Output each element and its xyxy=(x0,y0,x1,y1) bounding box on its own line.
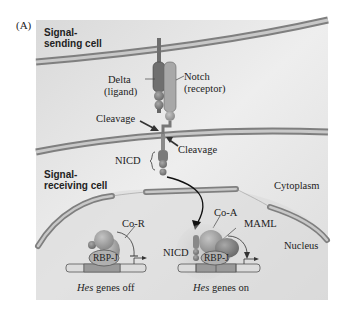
delta-sub-label: (ligand) xyxy=(104,86,137,97)
cytoplasm-label: Cytoplasm xyxy=(274,180,320,191)
genes-off-gene-name: Hes xyxy=(77,282,93,293)
notch-sub-label: (receptor) xyxy=(184,83,225,94)
rbp-j-off-label: RBP-J xyxy=(93,253,118,264)
genes-off-text: genes off xyxy=(93,282,134,293)
nicd-membrane-label: NICD xyxy=(115,155,141,166)
sending-cell-label-line2: sending cell xyxy=(44,38,102,49)
nicd-nucleus-label: NICD xyxy=(163,247,189,258)
delta-label: Delta xyxy=(108,74,131,85)
genes-on-gene-name: Hes xyxy=(193,282,209,293)
maml-label: MAML xyxy=(244,218,277,229)
cleavage-label-left: Cleavage xyxy=(96,113,135,124)
nucleus-label: Nucleus xyxy=(284,240,318,251)
genes-on-text: genes on xyxy=(209,282,249,293)
genes-on-caption: Hes genes on xyxy=(193,282,249,293)
notch-label: Notch xyxy=(184,71,210,82)
genes-off-caption: Hes genes off xyxy=(77,282,135,293)
cleavage-label-right: Cleavage xyxy=(178,144,217,155)
co-a-label: Co-A xyxy=(214,207,237,218)
rbp-j-on-label: RBP-J xyxy=(204,253,229,264)
co-r-label: Co-R xyxy=(122,218,145,229)
receiving-cell-label-line1: Signal- xyxy=(44,169,77,180)
panel-label: (A) xyxy=(16,20,31,31)
sending-cell-label-line1: Signal- xyxy=(44,27,77,38)
receiving-cell-label-line2: receiving cell xyxy=(44,180,107,191)
